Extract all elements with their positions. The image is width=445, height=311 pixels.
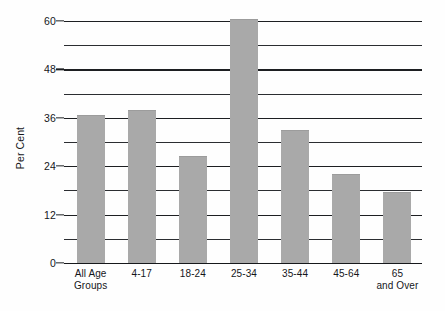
x-label-line1: 65: [392, 268, 403, 279]
bar[interactable]: [281, 130, 309, 263]
bar[interactable]: [383, 192, 411, 263]
bar[interactable]: [230, 19, 258, 263]
x-label-line2: Groups: [45, 280, 137, 292]
y-tick-label-60: 60: [22, 15, 56, 27]
x-axis-labels: All AgeGroups4-1718-2425-3435-4445-6465a…: [64, 268, 422, 308]
y-tick-mark-60: [56, 20, 64, 21]
bar[interactable]: [332, 174, 360, 263]
bar-chart: Per Cent 01224364860 All AgeGroups4-1718…: [0, 0, 445, 311]
y-tick-label-48: 48: [22, 63, 56, 75]
y-tick-mark-0: [56, 262, 64, 263]
y-tick-label-12: 12: [22, 209, 56, 221]
x-axis-baseline: [64, 263, 422, 264]
bar[interactable]: [128, 110, 156, 263]
y-tick-mark-36: [56, 117, 64, 118]
x-axis-category-label: 65and Over: [351, 268, 443, 291]
bar[interactable]: [179, 156, 207, 263]
y-tick-mark-24: [56, 166, 64, 167]
y-tick-label-36: 36: [22, 112, 56, 124]
y-tick-mark-48: [56, 69, 64, 70]
x-label-line2: and Over: [351, 280, 443, 292]
bar[interactable]: [77, 115, 105, 263]
y-tick-label-24: 24: [22, 160, 56, 172]
y-tick-mark-12: [56, 214, 64, 215]
bars-group: [64, 21, 422, 263]
